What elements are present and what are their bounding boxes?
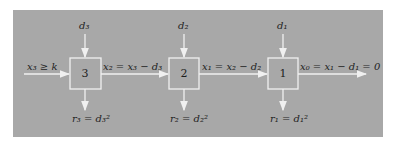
- d3-label: d₃: [79, 20, 89, 32]
- x1-label: x₁ = x₂ − d₂: [202, 61, 261, 73]
- x2-label: x₂ = x₃ − d₃: [103, 61, 162, 73]
- input-label: x₃ ≥ k: [27, 61, 57, 73]
- output-label: x₀ = x₁ − d₁ = 0: [300, 61, 380, 73]
- r2-label: r₂ = d₂²: [170, 113, 208, 125]
- d2-label: d₂: [178, 20, 188, 32]
- r1-label: r₁ = d₁²: [270, 113, 308, 125]
- d1-label: d₁: [277, 20, 287, 32]
- stage-2-number: 2: [169, 68, 199, 80]
- stage-3-number: 3: [70, 68, 100, 80]
- r3-label: r₃ = d₃²: [72, 113, 110, 125]
- stage-1-number: 1: [268, 68, 298, 80]
